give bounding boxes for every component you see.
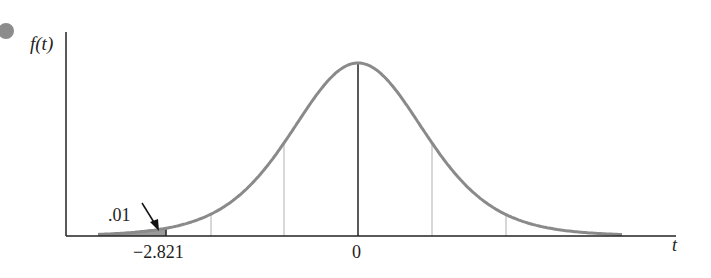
tick-label-zero: 0: [352, 242, 361, 262]
arrow-line: [142, 203, 155, 224]
tick-label-cutoff: −2.821: [133, 242, 184, 262]
density-curve: [98, 63, 622, 235]
tail-area-label: .01: [108, 205, 131, 225]
bullet-marker: [0, 23, 14, 39]
x-axis-label: t: [672, 235, 678, 255]
t-distribution-chart: f(t) t .01 −2.821 0: [0, 0, 711, 278]
y-axis-label: f(t): [30, 33, 53, 55]
